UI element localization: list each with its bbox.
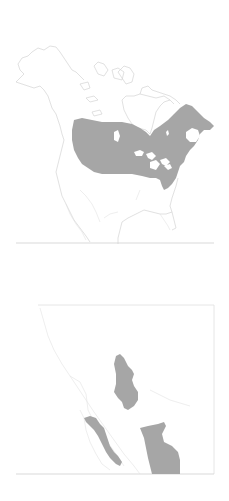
interior-borders [80, 190, 140, 222]
pacific-coastline [60, 188, 90, 242]
range-patch-sierra-madre-north [114, 354, 138, 410]
alaska-coastline [16, 46, 84, 188]
range-shaded-area [72, 104, 214, 190]
mexico-inset-map [0, 250, 229, 501]
gulf-coastline [118, 210, 172, 244]
labrador-coastline [140, 86, 180, 104]
range-map-figure [0, 0, 229, 501]
arctic-islands [80, 62, 134, 116]
atlantic-coastline [170, 178, 178, 230]
range-patch-sierra-madre-south [140, 422, 180, 474]
north-america-map-svg [0, 0, 229, 250]
state-border [150, 390, 190, 406]
florida-coastline [160, 214, 170, 230]
mexico-inset-svg [0, 250, 229, 501]
north-america-map [0, 0, 229, 250]
